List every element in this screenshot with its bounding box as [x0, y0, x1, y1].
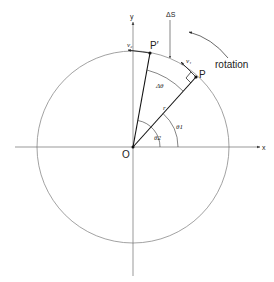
- arc-length-label: ΔS: [166, 11, 176, 18]
- y-axis-label: y: [130, 13, 134, 21]
- velocity-label-p-prime: v₂: [127, 41, 133, 49]
- origin-label: O: [122, 149, 130, 160]
- point-p-prime-label: P′: [150, 40, 159, 51]
- velocity-arrow-p-prime: [128, 50, 150, 53]
- velocity-label-p: v₁: [186, 57, 192, 65]
- rotation-label: rotation: [215, 59, 248, 70]
- radius-op-prime: [133, 53, 150, 147]
- theta2-label: θ2: [154, 134, 161, 142]
- delta-theta-arc: [147, 70, 183, 91]
- theta1-label: θ1: [176, 123, 183, 131]
- point-p-label: P: [199, 69, 206, 80]
- radius-op: [133, 77, 196, 147]
- delta-theta-label: Δθ: [155, 82, 164, 90]
- right-angle-marker-p: [186, 72, 191, 83]
- rotation-arrow: [189, 32, 228, 58]
- x-axis-label: x: [262, 144, 266, 151]
- rotation-diagram: x y O r θ1 θ2 Δθ P P′ ΔS v₁: [0, 0, 274, 282]
- radius-label: r: [163, 104, 166, 112]
